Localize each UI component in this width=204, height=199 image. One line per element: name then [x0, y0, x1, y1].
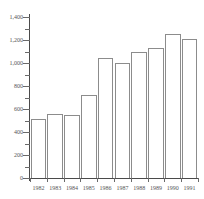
x-axis-tick [97, 178, 98, 182]
y-axis-tick-label: 200 [0, 152, 23, 158]
x-axis-tick [198, 178, 199, 182]
bar-1990 [165, 34, 181, 178]
y-axis-tick-label: 800 [0, 83, 23, 89]
y-axis-tick [23, 63, 30, 64]
y-axis-tick [23, 109, 30, 110]
x-axis-tick [181, 178, 182, 182]
bar-1988 [131, 52, 147, 179]
x-axis-tick [80, 178, 81, 182]
x-axis-tick [164, 178, 165, 182]
y-axis-tick [23, 17, 30, 18]
y-axis-tick [23, 86, 30, 87]
x-axis-tick [148, 178, 149, 182]
x-axis-tick-label: 1989 [148, 185, 165, 192]
bar-1983 [47, 114, 63, 178]
bar-chart: 02004006008001,0001,2001,400 19821983198… [0, 0, 204, 199]
y-axis-tick-label: 1,200 [0, 37, 23, 43]
bar-1985 [81, 95, 97, 178]
y-axis-tick-label: 0 [0, 175, 23, 181]
x-axis-tick-label: 1988 [131, 185, 148, 192]
y-axis-tick-label: 1,400 [0, 14, 23, 20]
bar-1991 [182, 39, 198, 178]
bar-1982 [31, 119, 47, 178]
y-axis-tick [23, 40, 30, 41]
x-axis-tick-label: 1984 [64, 185, 81, 192]
x-axis-tick [30, 178, 31, 182]
x-axis-tick-label: 1991 [181, 185, 198, 192]
x-axis-tick [131, 178, 132, 182]
bar-1987 [115, 63, 131, 178]
x-axis-tick-label: 1986 [97, 185, 114, 192]
y-axis-tick-label: 400 [0, 129, 23, 135]
y-axis-tick [23, 132, 30, 133]
x-axis-tick [47, 178, 48, 182]
bar-1984 [64, 115, 80, 178]
x-axis-tick [64, 178, 65, 182]
x-axis-tick-label: 1990 [164, 185, 181, 192]
y-axis-tick-label: 1,000 [0, 60, 23, 66]
plot-area [30, 17, 198, 178]
bar-1986 [98, 58, 114, 178]
x-axis-tick-label: 1983 [47, 185, 64, 192]
y-axis-tick [23, 178, 30, 179]
x-axis-tick-label: 1982 [30, 185, 47, 192]
x-axis-tick [114, 178, 115, 182]
x-axis-tick-label: 1985 [80, 185, 97, 192]
bar-1989 [148, 48, 164, 178]
y-axis-tick-label: 600 [0, 106, 23, 112]
x-axis-tick-label: 1987 [114, 185, 131, 192]
y-axis-tick [23, 155, 30, 156]
